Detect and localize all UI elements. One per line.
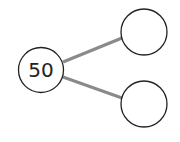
connector-top <box>63 38 122 62</box>
part-circle-top[interactable] <box>121 9 167 55</box>
connector-bottom <box>63 77 122 98</box>
part-circle-bottom[interactable] <box>121 81 167 127</box>
whole-value: 50 <box>18 47 64 93</box>
